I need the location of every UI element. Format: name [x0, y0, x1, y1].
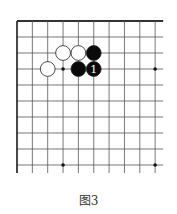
black-stone	[86, 46, 101, 61]
white-stone	[56, 46, 71, 61]
black-stone: 1	[86, 62, 101, 77]
stone-body	[40, 62, 55, 77]
star-point	[153, 67, 157, 71]
stone-body	[71, 46, 86, 61]
star-point	[61, 67, 65, 71]
white-stone	[40, 62, 55, 77]
black-stone	[71, 62, 86, 77]
stone-body	[71, 62, 86, 77]
stone-body	[86, 46, 101, 61]
move-number: 1	[90, 63, 97, 76]
white-stone	[71, 46, 86, 61]
stones: 1	[40, 46, 101, 77]
stone-body	[56, 46, 71, 61]
go-board: 1	[0, 0, 177, 185]
star-point	[61, 163, 65, 167]
board-grid	[17, 21, 163, 173]
figure-caption: 图3	[0, 191, 177, 208]
star-point	[153, 163, 157, 167]
